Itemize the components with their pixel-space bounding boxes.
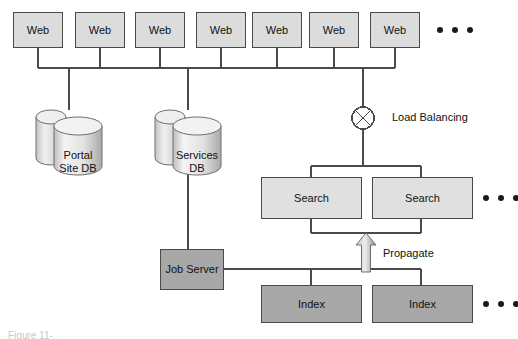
portal-site-db[interactable]: Portal Site DB (41, 126, 115, 188)
propagate-label: Propagate (383, 247, 434, 259)
web-tier-ellipsis (437, 27, 473, 33)
index-server-node-1[interactable]: Index (261, 285, 362, 323)
index-tier-ellipsis (483, 301, 518, 307)
search-server-node-1[interactable]: Search (261, 177, 362, 219)
search-server-node-2[interactable]: Search (372, 177, 473, 219)
web-server-node-6[interactable]: Web (309, 12, 359, 48)
job-server-node[interactable]: Job Server (160, 249, 224, 290)
index-server-node-2[interactable]: Index (372, 285, 473, 323)
portal-site-db-label: Portal Site DB (41, 126, 115, 188)
web-server-node-1[interactable]: Web (13, 12, 63, 48)
services-db[interactable]: Services DB (160, 126, 234, 188)
web-server-node-2[interactable]: Web (75, 12, 125, 48)
propagate-arrow-shape (356, 233, 376, 272)
figure-caption: Figure 11- (8, 330, 53, 339)
web-server-node-7[interactable]: Web (370, 12, 420, 48)
web-server-node-3[interactable]: Web (135, 12, 185, 48)
web-server-node-5[interactable]: Web (252, 12, 302, 48)
services-db-label-line1: Services (176, 149, 218, 161)
web-server-node-4[interactable]: Web (196, 12, 246, 48)
search-tier-ellipsis (483, 195, 518, 201)
portal-site-db-label-line1: Portal (64, 149, 93, 161)
services-db-label-line2: DB (189, 162, 204, 174)
load-balancing-label: Load Balancing (392, 111, 468, 123)
architecture-diagram: Web Web Web Web Web Web Web Portal Site … (0, 0, 518, 339)
services-db-label: Services DB (160, 126, 234, 188)
portal-site-db-label-line2: Site DB (59, 162, 96, 174)
